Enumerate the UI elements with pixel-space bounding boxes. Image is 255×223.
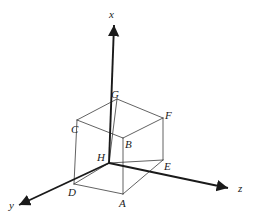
- axis-label-y: y: [9, 200, 14, 211]
- vertex-label-b: B: [125, 139, 132, 150]
- axis-line-group: [19, 25, 228, 205]
- figure-canvas: x y z A B C D E F G H: [0, 0, 255, 223]
- edge-H-E: [109, 160, 163, 163]
- cube-diagram: [0, 0, 255, 223]
- vertex-label-f: F: [165, 110, 172, 121]
- axis-y: [19, 163, 109, 205]
- edge-B-F: [123, 118, 163, 138]
- edge-A-E: [123, 160, 163, 194]
- edge-G-F: [117, 99, 163, 118]
- cube-edge-group: [74, 99, 163, 194]
- vertex-label-c: C: [71, 124, 78, 135]
- axis-label-x: x: [109, 9, 114, 20]
- axis-label-z: z: [238, 183, 242, 194]
- vertex-label-d: D: [68, 187, 76, 198]
- vertex-label-a: A: [119, 198, 126, 209]
- vertex-label-h: H: [97, 152, 105, 163]
- vertex-label-g: G: [111, 89, 119, 100]
- edge-D-A: [74, 184, 123, 194]
- edge-C-B: [77, 120, 123, 138]
- vertex-label-e: E: [164, 161, 171, 172]
